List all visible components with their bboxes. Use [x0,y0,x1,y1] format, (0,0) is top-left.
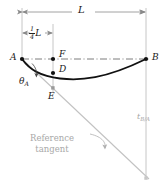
t-subscript: B/A [140,116,150,122]
tangent-end-marker [144,176,147,179]
label-theta-A: θA [19,77,29,87]
beam-deflection-diagram: L 1 4 L A B F D E θA tB/A Reference tang… [0,0,165,188]
theta-subscript: A [24,80,28,87]
quarter-length-L: L [35,28,41,38]
diagram-canvas [0,0,165,188]
reference-tangent-caption: Reference tangent [16,133,88,154]
node-F [51,57,55,61]
quarter-length-label: 1 4 L [29,26,41,40]
label-point-D: D [59,65,66,74]
node-A [20,57,24,61]
span-length-label: L [78,5,85,15]
reference-tangent-leader [90,134,107,150]
label-point-F: F [59,50,65,59]
label-point-E: E [48,92,55,101]
reference-tangent-line1: Reference [30,133,74,143]
label-point-B: B [152,53,159,62]
label-tangential-deviation: tB/A [137,113,150,122]
node-D [51,71,55,75]
node-B [144,57,148,61]
node-E-marker [51,86,54,89]
reference-tangent-line2: tangent [35,144,68,154]
label-point-A: A [10,53,17,62]
